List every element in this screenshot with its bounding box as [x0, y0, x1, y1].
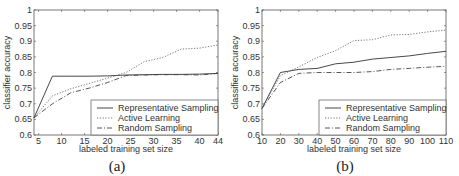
y-tick-label: 0.65: [242, 114, 260, 124]
x-tick-label: 5: [36, 136, 41, 146]
y-tick-label: 0.8: [19, 68, 32, 78]
legend-entry: Representative Sampling: [346, 103, 447, 113]
y-axis-label: classifier accuracy: [2, 35, 12, 109]
legend-entry: Representative Sampling: [118, 103, 219, 113]
y-tick-label: 1: [27, 5, 32, 15]
x-tick-label: 35: [172, 136, 182, 146]
y-tick-label: 0.7: [19, 99, 32, 109]
y-tick-label: 0.95: [14, 21, 32, 31]
x-tick-label: 44: [213, 136, 223, 146]
legend-entry: Random Sampling: [346, 123, 420, 133]
y-tick-label: 0.9: [19, 36, 32, 46]
y-tick-label: 0.7: [247, 99, 260, 109]
x-tick-label: 90: [404, 136, 414, 146]
x-tick-label: 110: [439, 136, 453, 146]
y-tick-label: 0.6: [19, 130, 32, 140]
legend-entry: Active Learning: [346, 113, 408, 123]
x-tick-label: 10: [257, 136, 267, 146]
x-tick-label: 30: [294, 136, 304, 146]
y-tick-label: 1: [255, 5, 260, 15]
y-tick-label: 0.9: [247, 36, 260, 46]
legend-entry: Active Learning: [118, 113, 180, 123]
subfigure-caption: (b): [336, 158, 354, 175]
y-tick-label: 0.75: [14, 83, 32, 93]
chart-b: 0.60.650.70.750.80.850.90.95110203040506…: [230, 5, 453, 175]
legend-entry: Random Sampling: [118, 123, 192, 133]
figure: 0.60.650.70.750.80.850.90.95151015202530…: [0, 0, 459, 176]
x-tick-label: 10: [57, 136, 67, 146]
x-tick-label: 100: [420, 136, 435, 146]
y-tick-label: 0.95: [242, 21, 260, 31]
y-tick-label: 0.75: [242, 83, 260, 93]
y-axis-label: classifier accuracy: [230, 35, 240, 109]
y-tick-label: 0.85: [14, 52, 32, 62]
y-tick-label: 0.85: [242, 52, 260, 62]
x-axis-label: labeled training set size: [307, 144, 401, 154]
x-axis-label: labeled training set size: [79, 144, 173, 154]
subfigure-caption: (a): [109, 158, 126, 175]
y-tick-label: 0.8: [247, 68, 260, 78]
y-tick-label: 0.65: [14, 114, 32, 124]
x-tick-label: 40: [195, 136, 205, 146]
chart-a: 0.60.650.70.750.80.850.90.95151015202530…: [2, 5, 223, 175]
x-tick-label: 20: [275, 136, 285, 146]
